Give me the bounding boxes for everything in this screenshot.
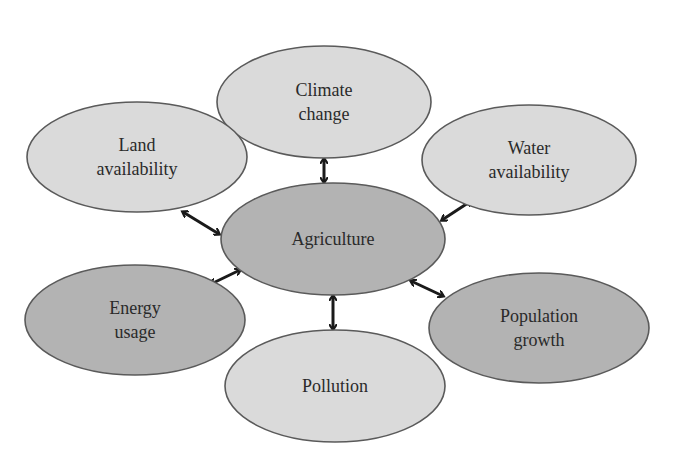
node-water-availability: Wateravailability	[422, 105, 636, 215]
ellipse-shape	[25, 265, 245, 375]
node-label: Water	[508, 138, 551, 158]
nodes: ClimatechangeLandavailabilityWateravaila…	[25, 46, 649, 442]
node-climate-change: Climatechange	[217, 46, 431, 158]
node-label: availability	[489, 162, 570, 182]
node-land-availability: Landavailability	[27, 102, 247, 212]
node-pollution: Pollution	[225, 330, 445, 442]
node-energy-usage: Energyusage	[25, 265, 245, 375]
node-label: change	[299, 104, 350, 124]
node-label: Pollution	[302, 376, 368, 396]
agriculture-relationship-diagram: ClimatechangeLandavailabilityWateravaila…	[0, 0, 677, 462]
node-agriculture: Agriculture	[221, 183, 445, 295]
ellipse-shape	[429, 273, 649, 383]
node-label: growth	[514, 330, 565, 350]
node-label: usage	[115, 322, 156, 342]
node-label: Energy	[109, 298, 161, 318]
node-label: Population	[500, 306, 578, 326]
ellipse-shape	[27, 102, 247, 212]
bidirectional-arrow-icon	[411, 281, 443, 296]
node-label: Agriculture	[292, 229, 375, 249]
ellipse-shape	[217, 46, 431, 158]
diagram-canvas: ClimatechangeLandavailabilityWateravaila…	[0, 0, 677, 462]
node-label: Climate	[296, 80, 353, 100]
ellipse-shape	[422, 105, 636, 215]
node-label: availability	[97, 159, 178, 179]
node-population-growth: Populationgrowth	[429, 273, 649, 383]
node-label: Land	[119, 135, 156, 155]
bidirectional-arrow-icon	[183, 212, 219, 234]
